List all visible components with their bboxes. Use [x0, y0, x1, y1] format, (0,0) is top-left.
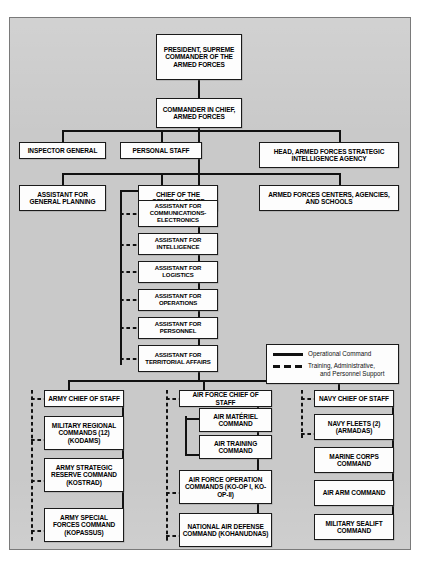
- node-assistant-territorial-affairs: ASSISTANT FOR TERRITORIAL AFFAIRS: [138, 345, 218, 372]
- connector-stub-assistant-4: [120, 299, 138, 301]
- legend-item-support: Training, Administrative, and Personnel …: [273, 362, 392, 378]
- node-president: PRESIDENT, SUPREME COMMANDER OF THE ARME…: [156, 34, 242, 80]
- connector-navy-stub-chief: [301, 398, 314, 400]
- node-centers-agencies-schools: ARMED FORCES CENTERS, AGENCIES, AND SCHO…: [259, 185, 399, 211]
- node-inspector-general: INSPECTOR GENERAL: [19, 142, 106, 159]
- node-assistant-intelligence: ASSISTANT FOR INTELLIGENCE: [138, 233, 218, 255]
- connector-stub-assistant-2: [120, 244, 138, 246]
- connector-stub-assistant-5: [120, 327, 138, 329]
- connector-tier2-bus: [62, 173, 340, 175]
- connector-drop-centers-agencies-schools: [339, 173, 341, 185]
- connector-army-stub-kopassus: [31, 530, 44, 532]
- connector-drop-personal-staff: [161, 130, 163, 142]
- connector-airforce-stub-koop: [166, 492, 179, 494]
- legend-label-support: Training, Administrative, and Personnel …: [308, 362, 384, 378]
- connector-stub-assistant-6: [120, 358, 138, 360]
- node-commander-in-chief: COMMANDER IN CHIEF, ARMED FORCES: [156, 98, 242, 128]
- connector-airforce-stub-kohanudnas: [166, 535, 179, 537]
- connector-drop-intel-agency: [339, 130, 341, 142]
- node-navy-marine-corps: MARINE CORPS COMMAND: [314, 447, 394, 473]
- legend: Operational Command Training, Administra…: [266, 344, 399, 384]
- node-navy-air-arm: AIR ARM COMMAND: [314, 480, 394, 506]
- legend-item-operational: Operational Command: [273, 350, 392, 358]
- connector-airforce-subcommands-trunk: [185, 416, 187, 456]
- node-assistant-logistics: ASSISTANT FOR LOGISTICS: [138, 261, 218, 283]
- node-intelligence-agency: HEAD, ARMED FORCES STRATEGIC INTELLIGENC…: [259, 142, 399, 168]
- connector-airforce-stub-chief: [166, 398, 179, 400]
- legend-solid-line-icon: [273, 353, 303, 356]
- node-army-kostrad: ARMY STRATEGIC RESERVE COMMAND (KOSTRAD): [44, 458, 124, 492]
- connector-army-stub-kostrad: [31, 480, 44, 482]
- connector-assistants-spine-top: [120, 190, 138, 192]
- legend-label-support-line2: and Personnel Support: [308, 370, 384, 378]
- node-assistant-general-planning: ASSISTANT FOR GENERAL PLANNING: [19, 185, 106, 211]
- connector-army-stub-kodams: [31, 439, 44, 441]
- node-navy-fleets: NAVY FLEETS (2) (ARMADAS): [314, 414, 394, 440]
- connector-president-to-cinc: [198, 80, 200, 98]
- connector-stub-assistant-3: [120, 271, 138, 273]
- node-assistant-communications-electronics: ASSISTANT FOR COMMUNICATIONS-ELECTRONICS: [138, 200, 218, 227]
- node-airforce-materiel-command: AIR MATÉRIEL COMMAND: [199, 408, 272, 432]
- node-airforce-chief-of-staff: AIR FORCE CHIEF OF STAFF: [179, 390, 272, 407]
- connector-army-support-spine: [31, 390, 33, 542]
- legend-label-support-line1: Training, Administrative,: [308, 362, 375, 369]
- node-assistant-personnel: ASSISTANT FOR PERSONNEL: [138, 317, 218, 339]
- node-airforce-operation-commands: AIR FORCE OPERATION COMMANDS (KO-OP I, K…: [179, 470, 272, 504]
- node-airforce-kohanudnas: NATIONAL AIR DEFENSE COMMAND (KOHANUDNAS…: [179, 513, 272, 547]
- connector-army-stub-chief: [31, 398, 44, 400]
- legend-label-operational: Operational Command: [308, 350, 371, 358]
- connector-drop-inspector-general: [62, 130, 64, 142]
- connector-navy-stub-fleets: [301, 433, 314, 435]
- node-navy-sealift: MILITARY SEALIFT COMMAND: [314, 514, 394, 540]
- connector-airforce-support-spine: [166, 390, 168, 542]
- node-army-kopassus: ARMY SPECIAL FORCES COMMAND (KOPASSUS): [44, 508, 124, 542]
- connector-airforce-trunk-materiel: [185, 418, 199, 420]
- node-assistant-operations: ASSISTANT FOR OPERATIONS: [138, 289, 218, 311]
- org-chart-frame: PRESIDENT, SUPREME COMMANDER OF THE ARME…: [9, 17, 411, 550]
- connector-airforce-trunk-training: [185, 454, 199, 456]
- connector-drop-chief-general-staff: [161, 173, 163, 185]
- node-airforce-training-command: AIR TRAINING COMMAND: [199, 435, 272, 459]
- connector-stub-assistant-1: [120, 213, 138, 215]
- node-army-kodams: MILITARY REGIONAL COMMANDS (12) (KODAMS): [44, 416, 124, 450]
- node-navy-chief-of-staff: NAVY CHIEF OF STAFF: [314, 390, 394, 407]
- connector-tier1-bus: [62, 130, 340, 132]
- connector-assistants-spine: [120, 190, 122, 365]
- node-army-chief-of-staff: ARMY CHIEF OF STAFF: [44, 390, 124, 407]
- connector-drop-assistant-general-planning: [62, 173, 64, 185]
- node-personal-staff: PERSONAL STAFF: [120, 142, 202, 159]
- legend-dashed-line-icon: [273, 365, 303, 368]
